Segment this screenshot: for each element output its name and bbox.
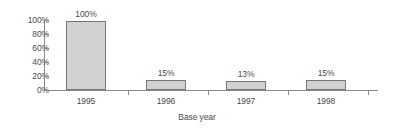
y-tick-row: 100%	[0, 20, 49, 21]
x-axis-line	[44, 90, 378, 91]
bar-chart: 100% 80% 60% 40% 20% 0% 100% 1995 15% 19…	[0, 0, 394, 136]
bar-1995	[66, 21, 106, 90]
bar-value-1995: 100%	[56, 10, 116, 19]
bar-value-1997: 13%	[216, 70, 276, 79]
category-label-1997: 1997	[216, 97, 276, 106]
bar-1996	[146, 80, 186, 90]
y-tick-row: 20%	[0, 76, 49, 77]
y-tick-mark	[44, 34, 49, 35]
y-tick-mark	[44, 62, 49, 63]
x-axis-title: Base year	[0, 113, 394, 122]
category-label-1995: 1995	[56, 97, 116, 106]
category-label-1998: 1998	[296, 97, 356, 106]
y-tick-mark	[44, 48, 49, 49]
bar-1997	[226, 81, 266, 90]
x-tick-mark	[368, 90, 369, 95]
bar-value-1998: 15%	[296, 69, 356, 78]
y-tick-row: 40%	[0, 62, 49, 63]
x-tick-mark	[128, 90, 129, 95]
bar-value-1996: 15%	[136, 69, 196, 78]
y-tick-row: 0%	[0, 90, 49, 91]
x-tick-mark	[208, 90, 209, 95]
y-tick-row: 80%	[0, 34, 49, 35]
bar-1998	[306, 80, 346, 90]
y-tick-mark	[44, 76, 49, 77]
y-tick-mark	[44, 20, 49, 21]
category-label-1996: 1996	[136, 97, 196, 106]
y-tick-row: 60%	[0, 48, 49, 49]
x-tick-mark	[288, 90, 289, 95]
